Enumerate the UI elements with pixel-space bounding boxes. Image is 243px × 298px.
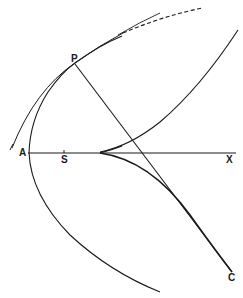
evolute-lower-branch [100, 153, 232, 272]
label-c: C [228, 273, 235, 283]
parabola-upper-branch [29, 28, 238, 153]
evolute-upper-branch [100, 146, 122, 153]
label-a: A [19, 148, 26, 158]
upper-curve [100, 30, 238, 152]
tangent-continuation [118, 13, 160, 35]
parabola-arm [75, 36, 122, 63]
label-x: X [226, 155, 233, 165]
parabola [29, 63, 160, 292]
label-p: P [71, 54, 78, 64]
circle-of-curvature-solid [12, 33, 123, 148]
parabola-right-branch [97, 30, 238, 152]
label-s: S [61, 155, 68, 165]
circle-of-curvature-dashed [123, 8, 202, 33]
parabola-evolute-diagram [0, 0, 243, 298]
